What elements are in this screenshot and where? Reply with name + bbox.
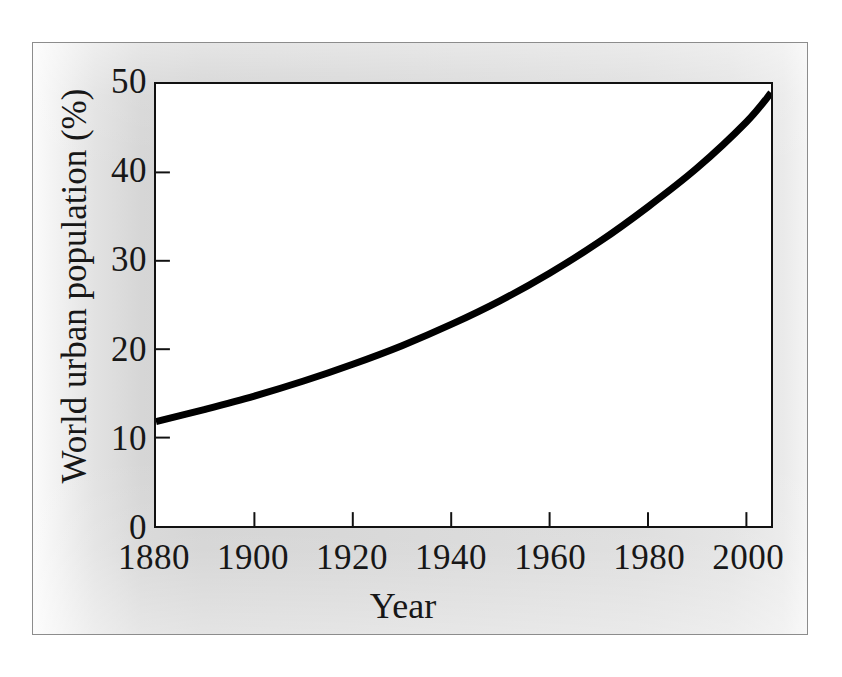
data-line-world-urban-population bbox=[156, 93, 771, 422]
figure-page: 01020304050 1880190019201940196019802000… bbox=[0, 0, 842, 677]
plot-area bbox=[154, 82, 773, 528]
x-axis-tick-label: 1880 bbox=[118, 540, 190, 575]
y-axis-tick-label: 40 bbox=[111, 153, 147, 188]
figure-frame: 01020304050 1880190019201940196019802000… bbox=[32, 42, 808, 635]
x-axis-tick-label: 1920 bbox=[316, 540, 388, 575]
x-axis-tick-label: 1960 bbox=[514, 540, 586, 575]
x-axis-tick-labels: 1880190019201940196019802000 bbox=[33, 540, 809, 586]
y-axis-tick-label: 30 bbox=[111, 242, 147, 277]
y-axis-tick-label: 20 bbox=[111, 332, 147, 367]
y-axis-tick-label: 10 bbox=[111, 421, 147, 456]
axis-ticks bbox=[156, 172, 746, 526]
y-axis-title: World urban population (%) bbox=[56, 36, 94, 536]
plot-canvas bbox=[156, 84, 771, 526]
x-axis-tick-label: 1940 bbox=[415, 540, 487, 575]
x-axis-tick-label: 1980 bbox=[613, 540, 685, 575]
x-axis-tick-label: 1900 bbox=[217, 540, 289, 575]
y-axis-tick-label: 50 bbox=[111, 64, 147, 99]
x-axis-title: Year bbox=[33, 586, 773, 626]
x-axis-tick-label: 2000 bbox=[712, 540, 784, 575]
